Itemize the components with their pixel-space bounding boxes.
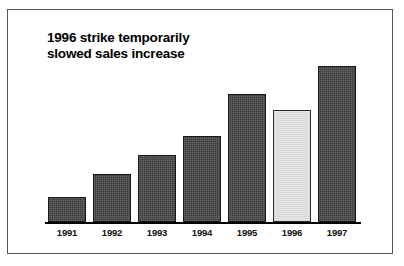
- bar-1991[interactable]: [48, 197, 86, 222]
- x-tick-label-1993: 1993: [135, 227, 179, 238]
- x-tick-label-1997: 1997: [315, 227, 359, 238]
- x-tick-label-1994: 1994: [180, 227, 224, 238]
- bar-1996[interactable]: [273, 110, 311, 222]
- bar-1994[interactable]: [183, 136, 221, 222]
- x-tick-label-1995: 1995: [225, 227, 269, 238]
- plot-area: [45, 66, 361, 222]
- x-tick-label-1996: 1996: [270, 227, 314, 238]
- bar-1995[interactable]: [228, 94, 266, 222]
- x-axis-line: [45, 222, 361, 224]
- x-tick-label-1991: 1991: [45, 227, 89, 238]
- chart-figure: 1996 strike temporarily slowed sales inc…: [0, 0, 404, 266]
- bar-1993[interactable]: [138, 155, 176, 222]
- bar-1992[interactable]: [93, 174, 131, 222]
- bar-1997[interactable]: [318, 66, 356, 222]
- x-tick-label-1992: 1992: [90, 227, 134, 238]
- chart-title: 1996 strike temporarily slowed sales inc…: [47, 30, 347, 62]
